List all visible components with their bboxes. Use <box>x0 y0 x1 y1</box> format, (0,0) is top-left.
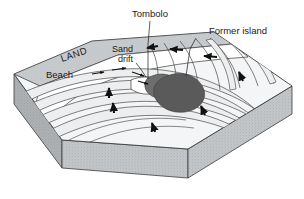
label-beach: Beach <box>46 69 73 80</box>
refraction-arrow-2 <box>204 56 217 57</box>
refraction-arrow-1 <box>170 49 183 50</box>
tombolo-block-diagram: Tombolo Former island Sand drift LAND Be… <box>0 0 304 199</box>
label-former-island: Former island <box>209 25 267 36</box>
label-tombolo: Tombolo <box>132 8 168 19</box>
wave-arrow-2 <box>113 103 114 113</box>
diagram-canvas: Tombolo Former island Sand drift LAND Be… <box>0 0 304 199</box>
label-sand-drift-line1: Sand <box>112 44 133 54</box>
label-sand-drift-line2: drift <box>118 54 134 64</box>
